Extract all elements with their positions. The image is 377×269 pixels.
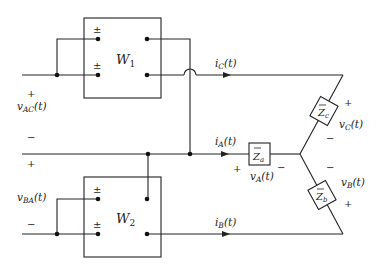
circuit-diagram: ± ± W1 ± ± W2 Za Zc Zb iC(t) iA(t) bbox=[0, 0, 377, 269]
svg-text:vBA(t): vBA(t) bbox=[17, 191, 46, 205]
voltage-vba: + vBA(t) − bbox=[17, 158, 46, 230]
arrow-ib bbox=[222, 231, 230, 237]
impedance-za: Za bbox=[249, 143, 270, 165]
svg-text:vAC(t): vAC(t) bbox=[17, 100, 47, 114]
w1-polarity-mark-voltage: ± bbox=[93, 24, 101, 35]
current-label-ib: iB(t) bbox=[215, 216, 236, 230]
arrow-ic bbox=[223, 72, 231, 78]
svg-text:+: + bbox=[344, 97, 352, 108]
svg-text:+: + bbox=[233, 163, 241, 174]
svg-text:+: + bbox=[27, 158, 35, 169]
wattmeter-w1: ± ± W1 bbox=[84, 18, 161, 98]
voltage-vac: + vAC(t) − bbox=[17, 88, 47, 143]
svg-text:−: − bbox=[326, 162, 334, 173]
wattmeter-w2: ± ± W2 bbox=[84, 177, 161, 257]
svg-text:+: + bbox=[27, 88, 35, 99]
arrow-ia bbox=[221, 151, 229, 157]
svg-text:+: + bbox=[344, 198, 352, 209]
svg-text:−: − bbox=[277, 162, 285, 173]
w2-polarity-mark-current: ± bbox=[93, 219, 101, 230]
w1-polarity-mark-current: ± bbox=[93, 60, 101, 71]
svg-text:−: − bbox=[326, 133, 334, 144]
w1-label: W1 bbox=[116, 52, 135, 69]
svg-text:−: − bbox=[27, 219, 35, 230]
svg-text:vA(t): vA(t) bbox=[250, 170, 274, 184]
svg-text:−: − bbox=[27, 132, 35, 143]
svg-text:vC(t): vC(t) bbox=[339, 118, 363, 132]
w2-polarity-mark-voltage: ± bbox=[93, 184, 101, 195]
wire-line-b bbox=[22, 199, 343, 237]
impedance-zb: Zb bbox=[307, 181, 336, 210]
svg-text:vB(t): vB(t) bbox=[341, 176, 365, 190]
current-label-ic: iC(t) bbox=[215, 57, 237, 71]
w2-label: W2 bbox=[116, 211, 135, 228]
wire-line-c bbox=[22, 39, 343, 78]
impedance-zc: Zc bbox=[310, 97, 338, 126]
current-label-ia: iA(t) bbox=[215, 135, 236, 149]
